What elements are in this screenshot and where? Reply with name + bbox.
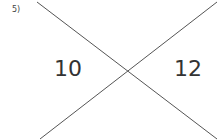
left-angle-value: 10 <box>54 56 82 81</box>
right-angle-value: 12 <box>174 56 202 81</box>
